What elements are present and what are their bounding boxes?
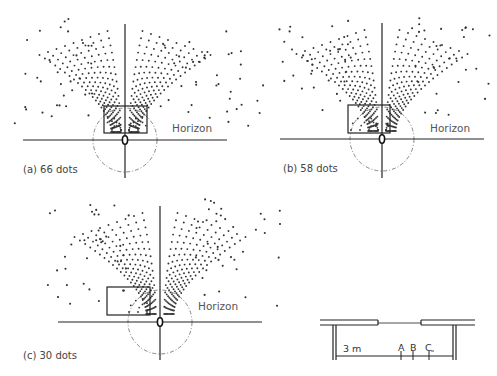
field-dot <box>65 56 67 58</box>
scatter-dot <box>87 45 89 47</box>
field-dot <box>366 107 368 109</box>
field-dot <box>143 99 145 101</box>
field-dot <box>348 76 350 78</box>
scatter-dot <box>57 71 59 73</box>
field-dot <box>188 230 190 232</box>
scatter-dot <box>54 209 56 211</box>
field-dot <box>390 72 392 74</box>
field-dot <box>168 280 170 282</box>
field-dot <box>181 277 183 279</box>
scatter-dot <box>279 223 281 225</box>
field-dot <box>119 250 121 252</box>
scatter-dot <box>328 79 330 81</box>
field-dot <box>173 288 175 290</box>
field-dot <box>126 237 128 239</box>
scatter-dot <box>64 268 66 270</box>
field-dot <box>109 108 111 110</box>
field-dot <box>84 243 86 245</box>
field-dot <box>326 60 328 62</box>
field-dot <box>144 290 146 292</box>
scatter-dot <box>58 104 60 106</box>
field-dot <box>330 78 332 80</box>
field-dot <box>97 66 99 68</box>
scatter-dot <box>463 36 465 38</box>
field-dot <box>132 259 134 261</box>
field-dot <box>135 242 137 244</box>
scatter-dot <box>423 29 425 31</box>
field-dot <box>146 87 148 89</box>
field-dot <box>418 61 420 63</box>
field-dot <box>401 90 403 92</box>
field-dot <box>355 53 357 55</box>
field-dot <box>371 100 373 102</box>
field-dot <box>369 78 371 80</box>
field-dot <box>113 66 115 68</box>
field-dot <box>101 98 103 100</box>
field-dot <box>144 275 146 277</box>
field-dot <box>113 85 115 87</box>
field-dot <box>69 61 71 63</box>
field-dot <box>158 89 160 91</box>
field-dot <box>117 111 119 113</box>
field-dot <box>144 108 146 110</box>
field-dot <box>99 254 101 256</box>
scatter-dot <box>67 30 69 32</box>
field-dot <box>341 67 343 69</box>
scatter-dot <box>198 61 200 63</box>
field-dot <box>180 50 182 52</box>
field-dot <box>356 71 358 73</box>
field-dot <box>183 242 185 244</box>
field-dot <box>149 72 151 74</box>
field-dot <box>77 82 79 84</box>
scatter-dot <box>168 99 170 101</box>
field-dot <box>142 270 144 272</box>
scatter-dot <box>278 257 280 259</box>
field-dot <box>141 288 143 290</box>
field-dot <box>395 105 397 107</box>
field-dot <box>406 81 408 83</box>
field-dot <box>149 101 151 103</box>
field-dot <box>407 93 409 95</box>
field-dot <box>143 292 145 294</box>
field-dot <box>138 72 140 74</box>
field-dot <box>400 71 402 73</box>
field-dot <box>142 88 144 90</box>
field-dot <box>91 230 93 232</box>
field-dot <box>400 98 402 100</box>
field-dot <box>338 38 340 40</box>
field-dot <box>171 241 173 243</box>
field-dot <box>410 99 412 101</box>
scatter-dot <box>292 75 294 77</box>
field-dot <box>146 234 148 236</box>
field-dot <box>178 281 180 283</box>
scatter-dot <box>302 54 304 56</box>
scatter-dot <box>424 112 426 114</box>
field-dot <box>123 275 125 277</box>
field-dot <box>357 89 359 91</box>
field-dot <box>183 272 185 274</box>
field-dot <box>149 283 151 285</box>
field-dot <box>407 53 409 55</box>
field-dot <box>147 277 149 279</box>
field-dot <box>436 60 438 62</box>
field-dot <box>369 58 371 60</box>
field-dot <box>47 51 49 53</box>
scatter-dot <box>66 284 68 286</box>
scatter-dot <box>260 213 262 215</box>
vortex-dot <box>135 125 137 127</box>
field-dot <box>393 110 395 112</box>
field-dot <box>130 282 132 284</box>
scatter-dot <box>418 23 420 25</box>
field-dot <box>132 248 134 250</box>
field-dot <box>150 33 152 35</box>
field-dot <box>104 242 106 244</box>
scatter-dot <box>301 36 303 38</box>
field-dot <box>94 250 96 252</box>
field-dot <box>100 40 102 42</box>
field-dot <box>84 57 86 59</box>
scatter-dot <box>93 213 95 215</box>
field-dot <box>172 47 174 49</box>
field-dot <box>453 54 455 56</box>
field-dot <box>105 99 107 101</box>
field-dot <box>393 58 395 60</box>
